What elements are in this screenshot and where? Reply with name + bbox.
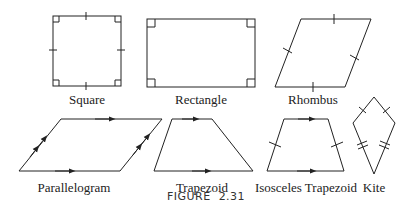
label-isosceles-trapezoid: Isosceles Trapezoid	[255, 180, 357, 196]
square-shape	[49, 12, 125, 90]
kite-shape	[353, 97, 395, 174]
trapezoid-shape	[154, 119, 253, 171]
label-parallelogram: Parallelogram	[38, 180, 111, 196]
label-rectangle: Rectangle	[175, 92, 227, 108]
rhombus-shape	[275, 14, 371, 92]
label-kite: Kite	[363, 180, 385, 196]
isosceles-trapezoid-shape	[267, 119, 344, 171]
parallelogram-shape	[19, 119, 162, 171]
figure-caption-number: 2.31	[219, 190, 246, 203]
label-rhombus: Rhombus	[288, 92, 338, 108]
figure-caption-word: FIGURE	[167, 190, 211, 203]
label-square: Square	[69, 92, 105, 108]
rectangle-shape	[147, 19, 255, 87]
figure-caption: FIGURE 2.31	[167, 190, 245, 203]
